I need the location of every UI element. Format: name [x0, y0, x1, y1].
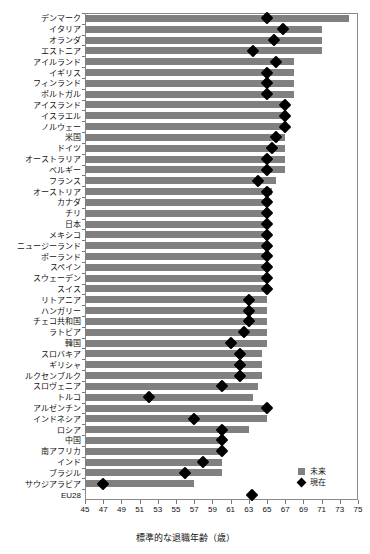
chart-row	[85, 56, 358, 67]
category-tick	[82, 370, 85, 371]
category-tick	[82, 219, 85, 220]
category-tick	[82, 132, 85, 133]
x-axis-tick	[158, 500, 159, 504]
x-axis-tick	[194, 500, 195, 504]
x-axis-tick	[231, 500, 232, 504]
category-label: ニュージーランド	[17, 241, 81, 250]
category-label: フランス	[49, 176, 81, 185]
category-label: スイス	[57, 284, 81, 293]
category-label: チェコ共和国	[33, 317, 81, 326]
bar-future	[85, 112, 285, 119]
category-tick	[82, 338, 85, 339]
category-tick	[82, 327, 85, 328]
category-tick	[82, 56, 85, 57]
category-label: ポルトガル	[41, 90, 81, 99]
x-axis-tick-label: 47	[99, 505, 108, 515]
category-label: 米国	[65, 133, 81, 142]
x-axis-tick-label: 61	[226, 505, 235, 515]
category-label: ドイツ	[57, 144, 81, 153]
chart-row	[85, 78, 358, 89]
chart-row	[85, 208, 358, 219]
category-label: スウェーデン	[33, 274, 81, 283]
chart-row	[85, 110, 358, 121]
x-axis-tick	[303, 500, 304, 504]
category-label: ラトビア	[49, 328, 81, 337]
bar-future	[85, 199, 267, 206]
chart-row	[85, 294, 358, 305]
bar-future	[85, 15, 349, 22]
chart-row	[85, 305, 358, 316]
chart-row	[85, 89, 358, 100]
category-tick	[82, 154, 85, 155]
x-axis-tick	[176, 500, 177, 504]
category-tick	[82, 284, 85, 285]
chart-row	[85, 219, 358, 230]
category-label: ギリシャ	[49, 360, 81, 369]
bar-future	[85, 340, 267, 347]
chart-row	[85, 197, 358, 208]
chart-row	[85, 359, 358, 370]
bar-future	[85, 448, 222, 455]
x-axis-tick	[322, 500, 323, 504]
category-tick	[82, 435, 85, 436]
chart-row	[85, 154, 358, 165]
bar-future	[85, 285, 267, 292]
x-axis-tick-label: 67	[281, 505, 290, 515]
category-label: フィンランド	[33, 79, 81, 88]
bar-future	[85, 307, 267, 314]
x-axis-tick-label: 45	[81, 505, 90, 515]
chart-row	[85, 186, 358, 197]
bar-future	[85, 253, 267, 260]
category-tick	[82, 175, 85, 176]
category-axis: デンマークイタリアオランダエストニアアイルランドイギリスフィンランドポルトガルア…	[0, 13, 85, 500]
chart-row	[85, 403, 358, 414]
category-label: スロバキア	[41, 349, 81, 358]
category-label: トルコ	[57, 393, 81, 402]
x-axis-tick-label: 55	[172, 505, 181, 515]
chart-row	[85, 381, 358, 392]
chart-row	[85, 338, 358, 349]
category-label: アルゼンチン	[33, 404, 81, 413]
diamond-marker-icon	[297, 478, 306, 487]
bar-future	[85, 296, 267, 303]
category-label: 日本	[65, 220, 81, 229]
bar-future	[85, 188, 272, 195]
x-axis-tick	[267, 500, 268, 504]
category-label: 南アフリカ	[41, 447, 81, 456]
bar-future	[85, 37, 322, 44]
x-axis-tick	[249, 500, 250, 504]
chart-row	[85, 284, 358, 295]
legend-label-future: 未来	[310, 466, 326, 477]
category-label: メキシコ	[49, 230, 81, 239]
chart-row	[85, 35, 358, 46]
x-axis-tick-label: 73	[335, 505, 344, 515]
category-label: リトアニア	[41, 295, 81, 304]
category-label: EU28	[61, 490, 81, 499]
x-axis-tick-label: 69	[299, 505, 308, 515]
chart-row	[85, 316, 358, 327]
chart-row	[85, 446, 358, 457]
category-label: スペイン	[50, 263, 81, 272]
chart-row	[85, 251, 358, 262]
chart-row	[85, 100, 358, 111]
legend-item-current: 現在	[297, 477, 326, 488]
x-axis-tick-label: 63	[244, 505, 253, 515]
retirement-age-chart: デンマークイタリアオランダエストニアアイルランドイギリスフィンランドポルトガルア…	[0, 0, 370, 554]
x-axis-tick-label: 59	[208, 505, 217, 515]
category-tick	[82, 446, 85, 447]
chart-row	[85, 489, 358, 500]
category-tick	[82, 478, 85, 479]
category-tick	[82, 143, 85, 144]
bar-future	[85, 469, 222, 476]
category-tick	[82, 489, 85, 490]
chart-row	[85, 67, 358, 78]
category-tick	[82, 197, 85, 198]
x-axis-tick-label: 51	[135, 505, 144, 515]
category-label: イタリア	[49, 25, 81, 34]
category-tick	[82, 110, 85, 111]
x-axis-tick	[212, 500, 213, 504]
category-label: スロヴェニア	[33, 382, 81, 391]
x-axis-tick-label: 65	[263, 505, 272, 515]
x-axis-tick	[285, 500, 286, 504]
bar-future	[85, 383, 258, 390]
